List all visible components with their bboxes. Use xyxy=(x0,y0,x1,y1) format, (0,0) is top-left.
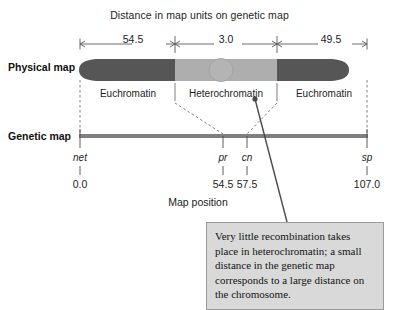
converge-line-pr xyxy=(175,103,223,134)
map-position-cn: 57.5 xyxy=(223,178,271,190)
scale-label-segment-3: 49.5 xyxy=(305,33,357,45)
callout-box: Very little recombination takes place in… xyxy=(206,222,384,310)
chromosome-right-euchromatin xyxy=(277,57,350,83)
genetic-map-row-label: Genetic map xyxy=(8,130,71,142)
axis-caption: Map position xyxy=(148,196,248,208)
region-label-heterochromatin: Heterochromatin xyxy=(178,88,274,99)
physical-map-row-label: Physical map xyxy=(8,61,75,73)
region-label-euchromatin-right: Euchromatin xyxy=(282,88,366,99)
scale-label-segment-1: 54.5 xyxy=(107,33,159,45)
map-position-net: 0.0 xyxy=(56,178,104,190)
genetic-map-ticks xyxy=(80,129,367,148)
genetic-map-leader-ticks xyxy=(80,166,367,175)
scale-label-segment-2: 3.0 xyxy=(200,33,252,45)
gene-label-cn: cn xyxy=(225,152,269,163)
gene-label-net: net xyxy=(58,152,102,163)
map-position-sp: 107.0 xyxy=(341,178,393,190)
region-label-euchromatin-left: Euchromatin xyxy=(86,88,170,99)
figure-canvas: Distance in map units on genetic map xyxy=(0,0,399,310)
chromosome-left-euchromatin xyxy=(79,57,175,83)
gene-label-sp: sp xyxy=(345,152,389,163)
centromere xyxy=(209,59,233,82)
converge-line-cn xyxy=(247,103,277,134)
